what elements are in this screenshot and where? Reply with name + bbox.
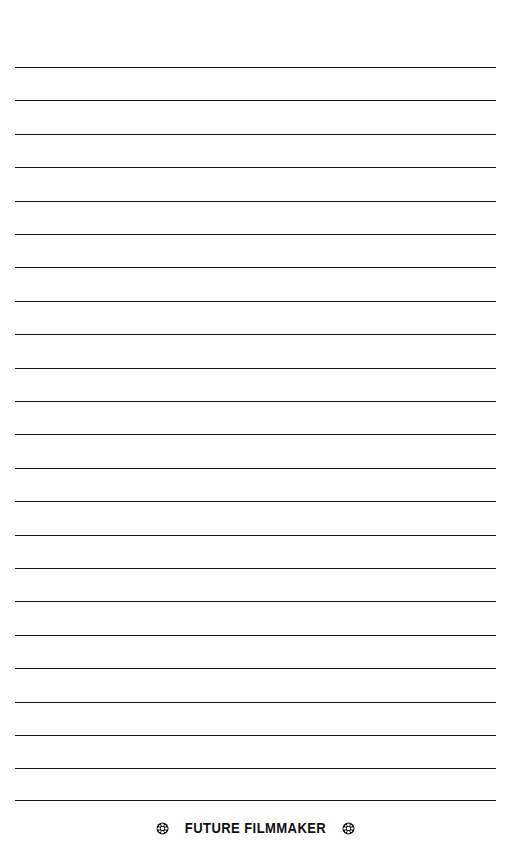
page-footer: FUTURE FILMMAKER bbox=[0, 811, 511, 845]
ruled-line bbox=[15, 535, 496, 536]
ruled-line bbox=[15, 100, 496, 101]
ruled-line bbox=[15, 468, 496, 469]
footer-title: FUTURE FILMMAKER bbox=[185, 821, 326, 836]
notebook-page: FUTURE FILMMAKER bbox=[0, 0, 511, 860]
film-reel-icon-right bbox=[342, 822, 355, 835]
ruled-line bbox=[15, 735, 496, 736]
ruled-line bbox=[15, 167, 496, 168]
film-reel-icon-left bbox=[156, 822, 169, 835]
ruled-line bbox=[15, 401, 496, 402]
ruled-line bbox=[15, 368, 496, 369]
ruled-line bbox=[15, 501, 496, 502]
ruled-line bbox=[15, 267, 496, 268]
ruled-line bbox=[15, 67, 496, 68]
ruled-lines-area bbox=[0, 0, 511, 810]
ruled-line bbox=[15, 768, 496, 769]
ruled-line bbox=[15, 334, 496, 335]
ruled-line bbox=[15, 201, 496, 202]
ruled-line bbox=[15, 301, 496, 302]
ruled-line bbox=[15, 134, 496, 135]
ruled-line bbox=[15, 668, 496, 669]
ruled-line bbox=[15, 800, 496, 801]
ruled-line bbox=[15, 635, 496, 636]
ruled-line bbox=[15, 234, 496, 235]
ruled-line bbox=[15, 702, 496, 703]
ruled-line bbox=[15, 601, 496, 602]
ruled-line bbox=[15, 568, 496, 569]
ruled-line bbox=[15, 434, 496, 435]
